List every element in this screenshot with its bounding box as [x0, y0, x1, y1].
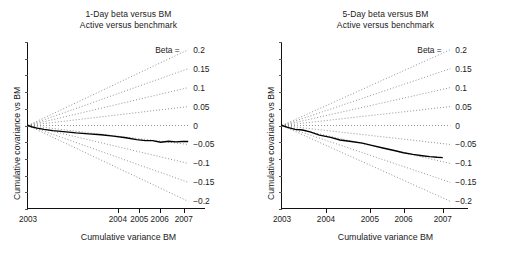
x-axis-tick-label: 2007 [175, 215, 193, 224]
y-axis-tick [279, 92, 282, 93]
y-axis-tick [279, 75, 282, 76]
beta-legend-header: Beta = [417, 45, 441, 55]
beta-reference-line [282, 126, 450, 145]
chart-title-1day: 1-Day beta versus BM Active versus bench… [0, 9, 257, 31]
y-axis-tick [25, 159, 28, 160]
x-axis-tick-label: 2003 [19, 215, 37, 224]
beta-line-label: −0.15 [455, 177, 476, 187]
y-axis-tick [25, 109, 28, 110]
beta-line-label: 0.05 [193, 102, 209, 112]
beta-line-label: −0.05 [455, 139, 476, 149]
beta-line-label: −0.2 [455, 196, 472, 206]
x-axis-label-1day: Cumulative variance BM [0, 232, 257, 242]
y-axis-tick [25, 59, 28, 60]
y-axis-tick [279, 126, 282, 127]
x-axis-tick-label: 2005 [130, 215, 148, 224]
beta-reference-line [282, 50, 450, 126]
x-axis-tick-label: 2006 [394, 215, 412, 224]
plot-area-5day: 200320042005200620070.20.150.10.050−0.05… [281, 42, 468, 209]
x-axis-tick [139, 209, 140, 213]
y-axis-tick [279, 192, 282, 193]
beta-line-label: −0.05 [193, 139, 214, 149]
x-axis-tick [404, 209, 405, 213]
beta-line-label: 0.2 [193, 45, 205, 55]
x-axis-tick-label: 2004 [317, 215, 335, 224]
y-axis-tick [25, 75, 28, 76]
beta-line-label: 0 [193, 121, 198, 131]
beta-line-label: −0.15 [193, 177, 214, 187]
y-axis-label-5day: Cumulative covariance vs BM [266, 87, 276, 200]
beta-line-label: 0.1 [193, 83, 205, 93]
beta-reference-line [28, 107, 188, 126]
y-axis-label-1day: Cumulative covariance vs BM [12, 87, 22, 200]
beta-line-label: 0.1 [455, 83, 467, 93]
y-axis-tick [279, 142, 282, 143]
x-axis-tick-label: 2006 [151, 215, 169, 224]
x-axis-tick-label: 2007 [434, 215, 452, 224]
beta-line-label: −0.1 [193, 158, 210, 168]
x-axis-tick [118, 209, 119, 213]
y-axis-tick [25, 209, 28, 210]
y-axis-tick [279, 42, 282, 43]
y-axis-tick [279, 176, 282, 177]
chart-title-line1: 5-Day beta versus BM [342, 9, 428, 19]
x-axis-tick-label: 2004 [109, 215, 127, 224]
beta-reference-line [28, 69, 188, 126]
chart-subtitle-line2: Active versus benchmark [0, 20, 257, 31]
figure-root: 1-Day beta versus BM Active versus bench… [0, 0, 514, 259]
x-axis-tick-label: 2005 [361, 215, 379, 224]
beta-reference-line [282, 126, 450, 183]
beta-reference-line [28, 126, 188, 202]
beta-reference-line [282, 88, 450, 126]
x-axis-tick [443, 209, 444, 213]
beta-line-label: 0 [455, 121, 460, 131]
beta-reference-line [282, 69, 450, 126]
beta-reference-line [28, 88, 188, 126]
y-axis-tick [25, 176, 28, 177]
beta-line-label: −0.1 [455, 158, 472, 168]
chart-title-5day: 5-Day beta versus BM Active versus bench… [257, 9, 514, 31]
x-axis-tick-label: 2003 [273, 215, 291, 224]
chart-panel-5day: 5-Day beta versus BM Active versus bench… [257, 0, 514, 259]
x-axis-label-5day: Cumulative variance BM [257, 232, 514, 242]
beta-reference-line [282, 126, 450, 202]
beta-line-label: 0.2 [455, 45, 467, 55]
chart-subtitle-line2: Active versus benchmark [257, 20, 514, 31]
x-axis-tick [160, 209, 161, 213]
beta-legend-header: Beta = [155, 45, 179, 55]
y-axis-tick [25, 92, 28, 93]
y-axis-tick [279, 159, 282, 160]
beta-reference-line [28, 126, 188, 183]
y-axis-tick [25, 142, 28, 143]
y-axis-tick [279, 209, 282, 210]
y-axis-tick [279, 59, 282, 60]
beta-reference-line [28, 50, 188, 126]
beta-line-label: 0.15 [193, 64, 209, 74]
beta-line-label: −0.2 [193, 196, 210, 206]
y-axis-tick [25, 42, 28, 43]
y-axis-tick [279, 109, 282, 110]
beta-line-label: 0.05 [455, 102, 471, 112]
chart-title-line1: 1-Day beta versus BM [85, 9, 171, 19]
chart-panel-1day: 1-Day beta versus BM Active versus bench… [0, 0, 257, 259]
plot-svg-5day [282, 42, 469, 209]
y-axis-tick [25, 192, 28, 193]
beta-reference-line [282, 107, 450, 126]
x-axis-tick [370, 209, 371, 213]
plot-area-1day: 200320042005200620070.20.150.10.050−0.05… [27, 42, 205, 209]
y-axis-tick [25, 126, 28, 127]
x-axis-tick [184, 209, 185, 213]
x-axis-tick [326, 209, 327, 213]
plot-svg-1day [28, 42, 206, 209]
beta-line-label: 0.15 [455, 64, 471, 74]
